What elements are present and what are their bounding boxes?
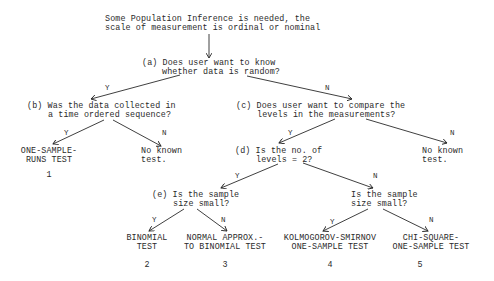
leaf-chi-square-line2: ONE-SAMPLE TEST xyxy=(388,242,474,252)
edge-label-a-yes: Y xyxy=(105,83,110,93)
edge-label-f-yes: Y xyxy=(330,217,335,227)
leaf-chi-square-number: 5 xyxy=(377,260,463,270)
edge-label-b-yes: Y xyxy=(64,128,69,138)
edge-label-a-no: N xyxy=(325,83,330,93)
root-text-line2: scale of measurement is ordinal or nomin… xyxy=(105,23,320,33)
edge-f-no xyxy=(383,209,428,231)
edge-label-c-no: N xyxy=(450,128,455,138)
edge-label-b-no: N xyxy=(162,128,167,138)
node-c-line2: levels in the measurements? xyxy=(257,110,395,120)
edge-label-e-no: N xyxy=(221,215,226,225)
edge-b-no xyxy=(113,120,161,146)
edge-label-c-yes: Y xyxy=(288,128,293,138)
edge-a-no xyxy=(247,76,352,99)
leaf-runs-test-number: 1 xyxy=(14,170,84,180)
edge-label-f-no: N xyxy=(429,215,434,225)
edge-b-yes xyxy=(53,120,104,144)
edge-c-no xyxy=(366,119,447,143)
leaf-no-known-test-c-line2: test. xyxy=(422,155,448,165)
edge-label-e-yes: Y xyxy=(152,215,157,225)
edge-d-yes xyxy=(221,164,278,188)
leaf-binomial-line2: TEST xyxy=(112,242,182,252)
edge-label-d-no: N xyxy=(373,171,378,181)
leaf-no-known-test-b-line2: test. xyxy=(141,155,167,165)
node-d-line2: levels = 2? xyxy=(256,155,312,165)
edge-d-no xyxy=(303,163,373,188)
decision-tree-diagram: Some Population Inference is needed, the… xyxy=(0,0,494,281)
node-b-line2: a time ordered sequence? xyxy=(48,110,171,120)
leaf-binomial-number: 2 xyxy=(112,260,182,270)
node-a-line2: whether data is random? xyxy=(162,67,280,77)
edge-label-d-yes: Y xyxy=(235,171,240,181)
leaf-ks-test-line2: ONE-SAMPLE TEST xyxy=(280,242,380,252)
leaf-normal-approx-line2: TO BINOMIAL TEST xyxy=(180,242,270,252)
leaf-ks-test-number: 4 xyxy=(280,260,380,270)
leaf-normal-approx-number: 3 xyxy=(180,260,270,270)
leaf-runs-test-line2: RUNS TEST xyxy=(14,155,84,165)
node-f-line2: size small? xyxy=(351,199,407,209)
node-e-line2: size small? xyxy=(173,199,229,209)
